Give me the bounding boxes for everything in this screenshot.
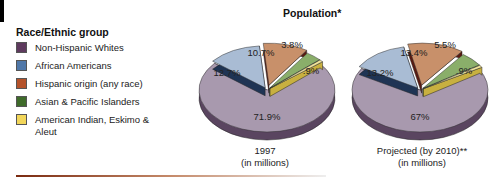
pie2-caption: Projected (by 2010)** (in millions) bbox=[362, 145, 482, 169]
slice-label: 12.7% bbox=[214, 67, 241, 78]
slice-label: 13.2% bbox=[367, 67, 394, 78]
slice-label: .9% bbox=[456, 65, 473, 76]
slice-label: 3.8% bbox=[281, 39, 303, 50]
slice-label: 10.7% bbox=[248, 47, 275, 58]
pie1-caption: 1997 (in millions) bbox=[225, 145, 305, 169]
slice-label: .9% bbox=[303, 65, 320, 76]
slice-label: 67% bbox=[410, 111, 430, 122]
bottom-rule bbox=[16, 175, 326, 177]
slice-label: 5.5% bbox=[434, 39, 456, 50]
slice-label: 71.9% bbox=[254, 111, 281, 122]
slice-label: 13.4% bbox=[401, 47, 428, 58]
